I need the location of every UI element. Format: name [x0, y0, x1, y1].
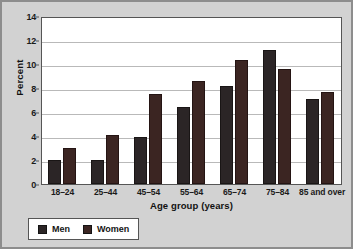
bar-group — [85, 18, 128, 184]
x-tick-label: 45–54 — [127, 187, 170, 197]
y-tick-mark — [36, 185, 39, 186]
x-tick-label: 18–24 — [41, 187, 84, 197]
y-tick-mark — [36, 89, 39, 90]
y-tick-mark — [36, 41, 39, 42]
bar-women — [192, 81, 205, 184]
legend-item: Men — [38, 224, 70, 234]
legend-label: Men — [52, 224, 70, 234]
bar-men — [48, 160, 61, 184]
bar-men — [177, 107, 190, 184]
bar-women — [278, 69, 291, 184]
y-tick-mark — [36, 113, 39, 114]
bar-women — [235, 60, 248, 184]
bar-women — [149, 94, 162, 184]
x-tick-label: 65–74 — [213, 187, 256, 197]
bar-men — [306, 99, 319, 184]
x-axis-tick-labels: 18–2425–4445–5455–6465–7475–8485 and ove… — [41, 187, 342, 200]
x-tick-label: 25–44 — [84, 187, 127, 197]
bars-layer — [42, 18, 341, 184]
y-tick-mark — [36, 17, 39, 18]
legend-item: Women — [83, 224, 129, 234]
legend-swatch-icon — [83, 225, 92, 234]
x-tick-label: 75–84 — [256, 187, 299, 197]
bar-group — [300, 18, 343, 184]
y-tick-label: 10 — [26, 60, 36, 70]
y-tick-label: 12 — [26, 36, 36, 46]
plot-area — [41, 17, 342, 185]
bar-men — [263, 50, 276, 184]
bar-men — [220, 86, 233, 184]
bar-men — [134, 137, 147, 184]
chart-legend: MenWomen — [28, 218, 139, 240]
y-axis-ticks: 02468101214 — [14, 17, 39, 185]
x-axis-title: Age group (years) — [41, 200, 342, 211]
x-tick-label: 55–64 — [170, 187, 213, 197]
y-tick-label: 14 — [26, 12, 36, 22]
bar-men — [91, 160, 104, 184]
x-tick-label: 85 and over — [299, 187, 342, 197]
bar-group — [257, 18, 300, 184]
bar-women — [106, 135, 119, 184]
legend-swatch-icon — [38, 225, 47, 234]
bar-group — [214, 18, 257, 184]
y-tick-mark — [36, 137, 39, 138]
bar-women — [321, 92, 334, 184]
bar-women — [63, 148, 76, 184]
chart-figure: Percent 02468101214 18–2425–4445–5455–64… — [0, 0, 353, 249]
legend-label: Women — [97, 224, 129, 234]
y-tick-mark — [36, 65, 39, 66]
y-tick-mark — [36, 161, 39, 162]
bar-group — [42, 18, 85, 184]
bar-group — [128, 18, 171, 184]
bar-group — [171, 18, 214, 184]
